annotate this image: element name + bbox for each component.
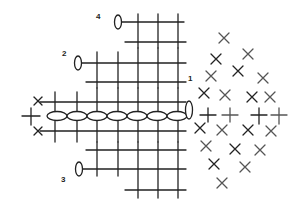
foundation-rows bbox=[22, 88, 193, 142]
chain-turn-oval-row-4 bbox=[115, 15, 122, 29]
fan-stitches bbox=[195, 33, 287, 188]
row-label-3: 3 bbox=[61, 176, 65, 184]
chain-turn-oval-row-3 bbox=[76, 162, 83, 176]
row-2 bbox=[75, 48, 187, 88]
row-3 bbox=[76, 142, 187, 198]
row-4 bbox=[115, 14, 187, 48]
chain-turn-oval-row-2 bbox=[75, 56, 82, 70]
row-label-1: 1 bbox=[188, 75, 192, 83]
chain-turn-oval-row-1 bbox=[186, 101, 193, 119]
row-label-2: 2 bbox=[62, 50, 66, 58]
row-label-4: 4 bbox=[96, 13, 100, 21]
stitch-chart-canvas bbox=[0, 0, 308, 213]
